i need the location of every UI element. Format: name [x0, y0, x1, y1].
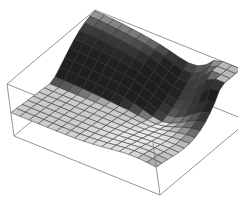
bounding-box-edge [7, 84, 14, 136]
surface-plot [0, 0, 238, 205]
surface-mesh [11, 11, 238, 167]
surface-plot-canvas [0, 0, 238, 205]
